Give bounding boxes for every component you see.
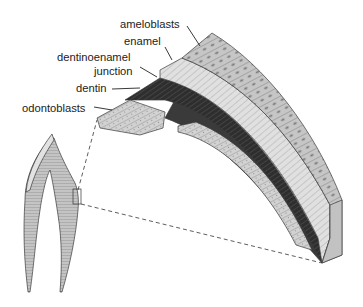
leader-enamel — [165, 47, 172, 60]
label-dentinoenamel: dentinoenamel — [57, 51, 130, 63]
zoom-line-top — [78, 120, 97, 190]
tooth-outer-shape — [24, 138, 78, 292]
leader-odontoblasts — [94, 107, 112, 110]
enlarged-section — [97, 33, 342, 263]
tooth-layers-diagram: ameloblasts enamel dentinoenamel junctio… — [0, 0, 363, 307]
tooth-cross-section — [24, 134, 81, 292]
label-junction: junction — [93, 65, 133, 77]
leader-dej — [140, 67, 157, 77]
label-dentin: dentin — [76, 82, 106, 94]
label-ameloblasts: ameloblasts — [120, 18, 180, 30]
label-odontoblasts: odontoblasts — [22, 102, 86, 114]
label-enamel: enamel — [124, 35, 161, 47]
leader-dentin — [112, 88, 140, 89]
leader-ameloblasts — [187, 26, 200, 46]
odontoblasts-layer-stub — [97, 100, 165, 135]
